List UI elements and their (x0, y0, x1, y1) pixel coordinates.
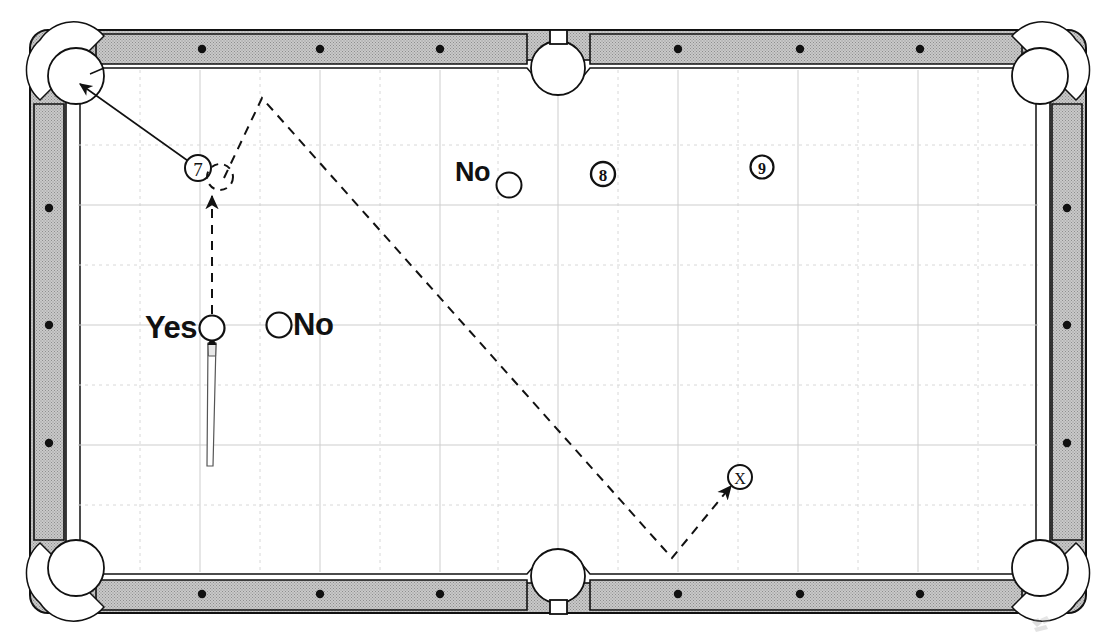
pocket-bottom-side (531, 549, 585, 603)
pocket-bottom-right (1012, 540, 1068, 596)
billiards-diagram: 7 8 9 X Yes No No (0, 0, 1116, 643)
label-yes: Yes (145, 310, 197, 346)
ball-7-label: 7 (193, 159, 203, 180)
pocket-tab-bottom (550, 600, 567, 614)
ball-8-label: 8 (599, 166, 608, 185)
pocket-top-side (531, 41, 585, 95)
ball-no-top (497, 173, 522, 198)
ball-9-label: 9 (758, 160, 766, 177)
cue-ball-yes (200, 316, 225, 341)
pocket-bottom-left (48, 540, 104, 596)
label-no-mid: No (293, 307, 333, 343)
pocket-top-right (1012, 48, 1068, 104)
ball-no-mid (267, 313, 292, 338)
pocket-tab-top (550, 30, 567, 44)
label-no-top: No (455, 157, 490, 188)
target-x-label: X (734, 470, 746, 487)
